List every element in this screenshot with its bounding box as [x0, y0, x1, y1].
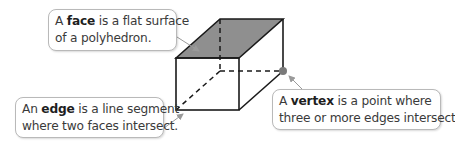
- edge-term: edge: [41, 102, 74, 116]
- vertex-callout-line2: three or more edges intersect.: [279, 110, 434, 127]
- vertex-callout: A vertex is a point where three or more …: [272, 89, 441, 130]
- face-callout-line1: A face is a flat surface: [55, 13, 170, 30]
- vertex-prefix: A: [279, 94, 291, 108]
- hidden-edge-diagonal: [176, 71, 220, 110]
- edge-callout-line1: An edge is a line segment: [22, 101, 157, 118]
- edge-callout: An edge is a line segment where two face…: [15, 97, 164, 138]
- vertex-line1-rest: is a point where: [334, 94, 432, 108]
- edge-prefix: An: [22, 102, 41, 116]
- face-term: face: [67, 14, 95, 28]
- face-callout-line2: of a polyhedron.: [55, 30, 170, 47]
- face-prefix: A: [55, 14, 67, 28]
- top-face: [176, 19, 283, 58]
- edge-callout-line2: where two faces intersect.: [22, 118, 157, 135]
- vertex-term: vertex: [291, 94, 334, 108]
- face-line1-rest: is a flat surface: [95, 14, 189, 28]
- vertex-dot: [279, 67, 287, 75]
- face-callout: A face is a flat surface of a polyhedron…: [48, 9, 177, 51]
- vertex-pointer-arrow: [289, 76, 302, 89]
- vertex-callout-line1: A vertex is a point where: [279, 93, 434, 110]
- edge-line1-rest: is a line segment: [75, 102, 180, 116]
